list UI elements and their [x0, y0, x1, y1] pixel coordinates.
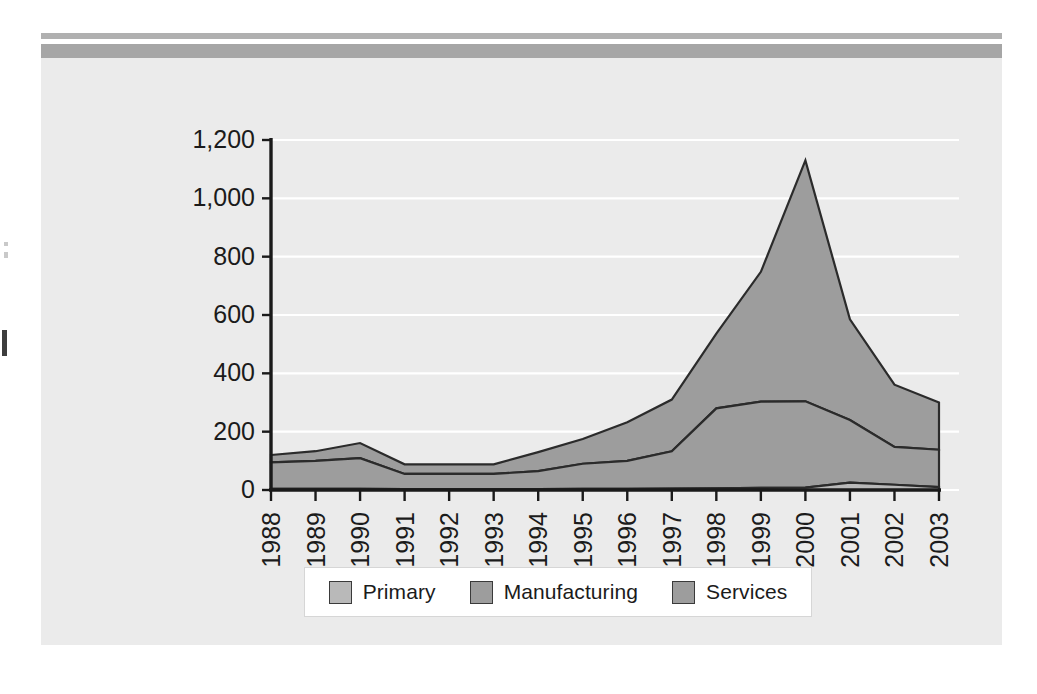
legend-item-primary[interactable]: Primary	[329, 580, 436, 604]
x-tick-label-1991: 1991	[391, 512, 419, 568]
y-tick-label-400: 400	[213, 358, 255, 386]
x-tick-label-1988: 1988	[257, 512, 285, 568]
legend-item-services[interactable]: Services	[672, 580, 787, 604]
x-tick-label-1995: 1995	[569, 512, 597, 568]
x-tick-label-2003: 2003	[925, 512, 953, 568]
x-tick-label-1998: 1998	[702, 512, 730, 568]
x-tick-label-1992: 1992	[435, 512, 463, 568]
plot-area: 02004006008001,0001,200 1988198919901991…	[41, 58, 1002, 645]
stacked-area-chart: 02004006008001,0001,200 1988198919901991…	[41, 58, 1002, 645]
x-tick-label-2002: 2002	[880, 512, 908, 568]
x-tick-label-1997: 1997	[658, 512, 686, 568]
y-tick-label-200: 200	[213, 417, 255, 445]
x-tick-label-1990: 1990	[346, 512, 374, 568]
y-tick-label-1200: 1,200	[192, 125, 255, 153]
legend-swatch-manufacturing	[470, 581, 493, 604]
legend-label-manufacturing: Manufacturing	[504, 580, 638, 604]
legend-label-services: Services	[706, 580, 787, 604]
legend-swatch-primary	[329, 581, 352, 604]
header-rule-thick	[41, 44, 1002, 58]
x-tick-label-1989: 1989	[302, 512, 330, 568]
x-tick-label-2000: 2000	[791, 512, 819, 568]
legend-swatch-services	[672, 581, 695, 604]
legend-item-manufacturing[interactable]: Manufacturing	[470, 580, 638, 604]
y-tick-label-0: 0	[241, 475, 255, 503]
x-tick-label-1993: 1993	[480, 512, 508, 568]
x-tick-label-1994: 1994	[524, 512, 552, 568]
chart-figure: 02004006008001,0001,200 1988198919901991…	[41, 33, 1002, 645]
y-tick-labels: 02004006008001,0001,200	[192, 125, 255, 503]
x-tick-labels: 1988198919901991199219931994199519961997…	[257, 512, 953, 568]
legend-label-primary: Primary	[363, 580, 436, 604]
chart-legend: Primary Manufacturing Services	[304, 567, 812, 617]
y-tick-label-600: 600	[213, 300, 255, 328]
x-tick-label-2001: 2001	[836, 512, 864, 568]
artifact-speck-3	[2, 330, 7, 356]
y-tick-label-800: 800	[213, 242, 255, 270]
area-series-group	[271, 160, 939, 490]
x-tick-label-1999: 1999	[747, 512, 775, 568]
artifact-speck-2	[4, 252, 8, 258]
artifact-speck-1	[4, 242, 8, 246]
y-tick-label-1000: 1,000	[192, 183, 255, 211]
x-tick-label-1996: 1996	[613, 512, 641, 568]
